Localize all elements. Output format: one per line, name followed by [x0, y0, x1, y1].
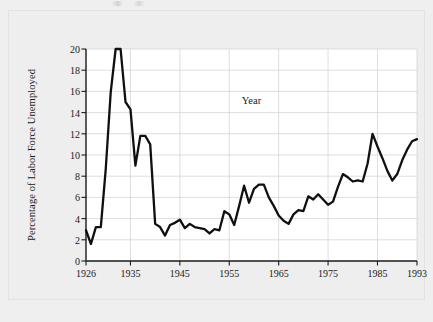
- y-tick-label: 16: [70, 86, 80, 97]
- y-tick-label: 2: [75, 234, 80, 245]
- scan-artifact: [112, 1, 154, 6]
- x-tick-label: 1985: [367, 268, 387, 279]
- x-tick-label: 1926: [76, 268, 96, 279]
- x-tick-label: 1965: [269, 268, 289, 279]
- y-tick-label: 0: [75, 256, 80, 267]
- y-axis-title: Percentage of Labor Force Unemployed: [26, 49, 40, 261]
- x-tick-label: 1935: [120, 268, 140, 279]
- figure-container: 02468101214161820 1926193519451955196519…: [0, 0, 433, 322]
- x-tick-label: 1945: [170, 268, 190, 279]
- chart-panel: 02468101214161820 1926193519451955196519…: [8, 10, 425, 300]
- y-tick-label: 14: [70, 107, 80, 118]
- y-tick-label: 12: [70, 128, 80, 139]
- y-tick-label: 10: [70, 150, 80, 161]
- plot-area: 02468101214161820 1926193519451955196519…: [86, 49, 417, 261]
- x-tick-label: 1955: [219, 268, 239, 279]
- x-tick-label: 1975: [318, 268, 338, 279]
- x-tick-label: 1993: [407, 268, 427, 279]
- y-tick-label: 18: [70, 65, 80, 76]
- y-tick-label: 8: [75, 171, 80, 182]
- y-tick-label: 20: [70, 44, 80, 55]
- gridlines: [86, 49, 417, 261]
- data-series-layer: [86, 49, 417, 244]
- y-tick-label: 6: [75, 192, 80, 203]
- y-tick-label: 4: [75, 213, 80, 224]
- data-line-percentage-of-labor-force-unemployed: [86, 49, 417, 244]
- axis-ticks: [82, 49, 418, 266]
- unemployment-line-chart: [86, 49, 417, 261]
- x-axis-title: Year: [86, 95, 417, 106]
